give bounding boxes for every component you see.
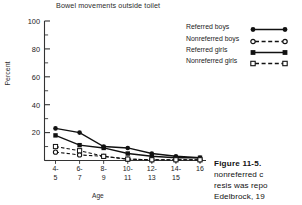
legend-label-nonreferred-girls: Nonreferred girls: [186, 57, 249, 64]
y-tick-label: 60: [18, 73, 40, 82]
data-series-layer: [53, 126, 202, 162]
y-tick-label: 20: [18, 128, 40, 137]
legend-swatch-nonreferred-boys: [249, 33, 289, 44]
data-point: [101, 146, 105, 150]
caption-line-2: resis was repo: [214, 180, 302, 191]
data-point: [77, 130, 82, 135]
legend-item-referred-boys: Referred boys: [186, 21, 289, 32]
legend-label-referred-girls: Referred girls: [186, 46, 249, 53]
y-axis-ticks: [45, 21, 51, 161]
data-point: [53, 144, 57, 148]
data-point: [77, 149, 81, 153]
data-point: [126, 157, 130, 161]
caption-line-1: nonreferred c: [214, 169, 302, 180]
caption-heading: Figure 11-5.: [214, 158, 302, 169]
x-tick-label: 12-13: [141, 165, 163, 182]
data-point: [77, 143, 81, 147]
legend-swatch-nonreferred-girls: [249, 55, 289, 66]
legend-label-referred-boys: Referred boys: [186, 23, 249, 30]
legend-item-nonreferred-boys: Nonreferred boys: [186, 32, 289, 43]
legend-label-nonreferred-boys: Nonreferred boys: [186, 35, 249, 42]
x-tick-label: 16: [189, 165, 211, 174]
caption-line-3: Edelbrock, 19: [214, 191, 302, 202]
axis-lines: [45, 21, 207, 161]
legend-swatch-referred-boys: [249, 21, 289, 32]
x-tick-label: 10-11: [117, 165, 139, 182]
data-point: [77, 153, 81, 157]
figure-caption: Figure 11-5. nonreferred c resis was rep…: [214, 158, 302, 202]
x-tick-label: 6-7: [69, 165, 91, 182]
data-point: [198, 158, 202, 162]
x-tick-label: 8-9: [93, 165, 115, 182]
x-axis-label: Age: [92, 192, 104, 199]
legend-item-nonreferred-girls: Nonreferred girls: [186, 55, 289, 66]
legend-item-referred-girls: Referred girls: [186, 44, 289, 55]
data-point: [53, 126, 58, 131]
y-axis-label: Percent: [4, 49, 11, 99]
data-point: [53, 150, 57, 154]
x-tick-label: 14-15: [165, 165, 187, 182]
y-tick-label: 100: [18, 17, 40, 26]
data-point: [125, 146, 130, 151]
data-point: [150, 158, 154, 162]
chart-title: Bowel movements outside toilet: [56, 1, 160, 10]
data-point: [126, 151, 130, 155]
y-tick-label: 40: [18, 101, 40, 110]
x-tick-label: 4-5: [45, 165, 67, 182]
figure-container: Bowel movements outside toilet Percent A…: [0, 0, 302, 205]
data-point: [174, 158, 178, 162]
data-point: [53, 133, 57, 137]
chart-legend: Referred boys Nonreferred boys Refer: [186, 21, 289, 67]
y-tick-label: 80: [18, 45, 40, 54]
legend-swatch-referred-girls: [249, 44, 289, 55]
data-point: [102, 154, 106, 158]
